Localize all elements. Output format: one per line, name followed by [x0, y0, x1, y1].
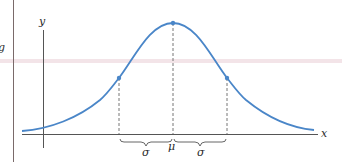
normal-distribution-diagram: g y x σ μ σ — [0, 0, 342, 162]
sigma-brace-right — [174, 139, 226, 146]
margin-text: g — [0, 41, 5, 54]
mean-label: μ — [168, 140, 175, 153]
inflection-point-left — [117, 76, 121, 80]
peak-point — [171, 21, 175, 25]
inflection-point-right — [225, 76, 229, 80]
y-axis-label: y — [38, 15, 46, 28]
x-axis-label: x — [321, 127, 328, 140]
sigma-left-label: σ — [142, 146, 150, 159]
bell-curve — [22, 23, 314, 131]
sigma-right-label: σ — [197, 146, 205, 159]
background-band — [0, 59, 342, 63]
sigma-brace-left — [120, 139, 172, 146]
